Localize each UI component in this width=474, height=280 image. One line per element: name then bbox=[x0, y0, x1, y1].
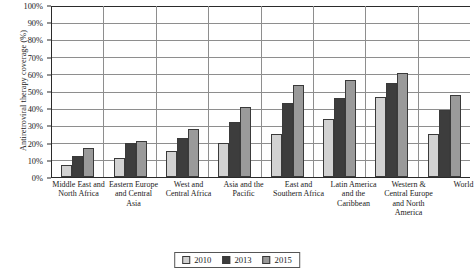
bar-2015 bbox=[240, 107, 251, 177]
bar-2015 bbox=[345, 80, 356, 177]
bar-group bbox=[52, 6, 104, 177]
x-category-label: East and Southern Africa bbox=[271, 180, 326, 218]
bar-2010 bbox=[114, 158, 125, 177]
legend-label-2013: 2013 bbox=[234, 255, 251, 265]
y-tick-label: 100% bbox=[23, 2, 43, 11]
y-tick-label: 20% bbox=[28, 139, 43, 148]
chart-legend: 2010 2013 2015 bbox=[174, 252, 300, 268]
x-axis-category-labels: Middle East and North AfricaEastern Euro… bbox=[51, 180, 474, 218]
bar-2013 bbox=[282, 103, 293, 177]
legend-swatch-2010 bbox=[182, 256, 190, 264]
bar-2013 bbox=[177, 138, 188, 177]
y-tick-label: 60% bbox=[28, 70, 43, 79]
bar-2010 bbox=[271, 134, 282, 177]
bar-group bbox=[157, 6, 209, 177]
x-category-label: Asia and the Pacific bbox=[216, 180, 271, 218]
legend-item-2015: 2015 bbox=[263, 255, 292, 265]
y-tick-label: 0% bbox=[32, 174, 43, 183]
bar-2010 bbox=[218, 143, 229, 177]
legend-swatch-2015 bbox=[263, 256, 271, 264]
bar-2010 bbox=[166, 151, 177, 177]
plot-area: 100%90%80%70%60%50%40%30%20%10%0% bbox=[15, 6, 470, 178]
bar-group bbox=[314, 6, 366, 177]
bar-2015 bbox=[397, 73, 408, 177]
bar-2015 bbox=[450, 95, 461, 177]
bar-2010 bbox=[323, 119, 334, 177]
legend-item-2013: 2013 bbox=[222, 255, 251, 265]
x-category-label: Middle East and North Africa bbox=[51, 180, 106, 218]
bars-layer bbox=[52, 6, 470, 177]
y-tick-label: 50% bbox=[28, 88, 43, 97]
bar-group bbox=[209, 6, 261, 177]
legend-item-2010: 2010 bbox=[182, 255, 211, 265]
bar-2013 bbox=[439, 110, 450, 177]
y-tick-label: 10% bbox=[28, 156, 43, 165]
y-tick-label: 30% bbox=[28, 122, 43, 131]
legend-label-2010: 2010 bbox=[194, 255, 211, 265]
bar-group bbox=[104, 6, 156, 177]
bar-2010 bbox=[428, 134, 439, 177]
bar-2010 bbox=[61, 165, 72, 177]
bar-chart: Antiretroviral therapy coverage (%) 100%… bbox=[0, 0, 474, 280]
bar-group bbox=[419, 6, 470, 177]
legend-label-2015: 2015 bbox=[275, 255, 292, 265]
plot-canvas bbox=[51, 6, 470, 178]
y-axis-ticks: 100%90%80%70%60%50%40%30%20%10%0% bbox=[15, 6, 47, 178]
y-tick-label: 90% bbox=[28, 19, 43, 28]
y-tick-label: 40% bbox=[28, 105, 43, 114]
bar-2015 bbox=[293, 85, 304, 177]
y-tick-label: 70% bbox=[28, 53, 43, 62]
x-category-label: Latin America and the Caribbean bbox=[326, 180, 381, 218]
bar-2013 bbox=[334, 98, 345, 177]
x-category-label: World bbox=[436, 180, 474, 218]
bar-group bbox=[262, 6, 314, 177]
bar-2013 bbox=[386, 83, 397, 177]
bar-2015 bbox=[136, 141, 147, 177]
bar-2015 bbox=[83, 148, 94, 177]
y-tick-label: 80% bbox=[28, 36, 43, 45]
bar-2015 bbox=[188, 129, 199, 177]
bar-group bbox=[366, 6, 418, 177]
x-category-label: Eastern Europe and Central Asia bbox=[106, 180, 161, 218]
bar-2013 bbox=[125, 143, 136, 177]
x-category-label: West and Central Africa bbox=[161, 180, 216, 218]
bar-2013 bbox=[229, 122, 240, 177]
x-category-label: Western & Central Europe and North Ameri… bbox=[381, 180, 436, 218]
legend-swatch-2013 bbox=[222, 256, 230, 264]
bar-2013 bbox=[72, 156, 83, 177]
bar-2010 bbox=[375, 97, 386, 177]
